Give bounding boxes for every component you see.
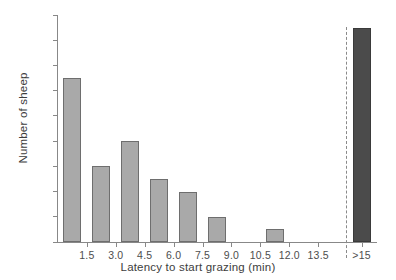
- histogram-figure: 024681012141618 1.53.04.56.07.59.010.512…: [0, 0, 396, 280]
- x-axis-title: Latency to start grazing (min): [0, 261, 396, 273]
- y-axis-tick-mark: [53, 115, 57, 116]
- x-axis-line: [57, 242, 377, 243]
- x-axis-tick-mark: [260, 243, 261, 247]
- y-axis-title: Number of sheep: [17, 38, 29, 198]
- y-axis-tick-mark: [53, 40, 57, 41]
- threshold-dashed-line: [346, 27, 347, 258]
- bar: [179, 192, 197, 242]
- bar: [150, 179, 168, 242]
- y-axis-tick-mark: [53, 90, 57, 91]
- x-axis-tick-mark: [362, 243, 363, 247]
- y-axis-tick-mark: [53, 141, 57, 142]
- y-axis-tick-mark: [53, 15, 57, 16]
- x-axis-tick-label: >15: [337, 249, 387, 261]
- plot-area: [58, 15, 376, 242]
- bar: [208, 217, 226, 242]
- y-axis-tick-mark: [53, 65, 57, 66]
- bar: [92, 166, 110, 242]
- x-axis-tick-mark: [116, 243, 117, 247]
- y-axis-tick-mark: [53, 191, 57, 192]
- bar: [63, 78, 81, 242]
- x-axis-tick-mark: [145, 243, 146, 247]
- bar: [266, 229, 284, 242]
- x-axis-tick-mark: [203, 243, 204, 247]
- x-axis-tick-mark: [231, 243, 232, 247]
- x-axis-tick-mark: [289, 243, 290, 247]
- y-axis-tick-mark: [53, 216, 57, 217]
- x-axis-tick-mark: [174, 243, 175, 247]
- x-axis-tick-mark: [87, 243, 88, 247]
- y-axis-tick-mark: [53, 166, 57, 167]
- bar: [121, 141, 139, 242]
- bar: [353, 28, 371, 242]
- y-axis-tick-mark: [53, 242, 57, 243]
- x-axis-tick-mark: [318, 243, 319, 247]
